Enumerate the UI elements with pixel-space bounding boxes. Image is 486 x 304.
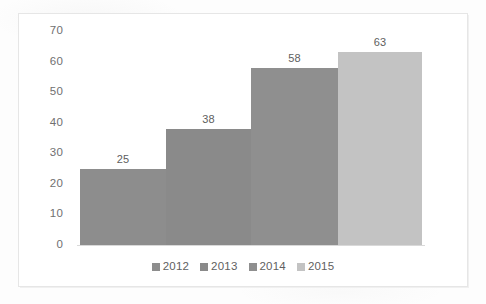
bar-value-label: 58: [288, 53, 301, 64]
legend-item-2014[interactable]: 2014: [249, 261, 286, 273]
y-axis-tick-20: 20: [50, 178, 63, 190]
bar-rect-2014[interactable]: [251, 68, 338, 245]
y-axis-tick-50: 50: [50, 86, 63, 98]
y-axis-tick-40: 40: [50, 117, 63, 129]
x-axis-baseline: [77, 245, 425, 246]
y-axis-tick-10: 10: [50, 208, 63, 220]
bar-rect-2015[interactable]: [338, 52, 422, 245]
legend-swatch-icon: [297, 263, 305, 271]
legend-item-2013[interactable]: 2013: [200, 261, 237, 273]
chart-frame: 706050403020100 25385863 201220132014201…: [18, 13, 468, 287]
legend-swatch-icon: [152, 263, 160, 271]
legend-swatch-icon: [200, 263, 208, 271]
bar-value-label: 38: [202, 114, 215, 125]
y-axis-tick-30: 30: [50, 147, 63, 159]
chart-screenshot: 706050403020100 25385863 201220132014201…: [0, 0, 486, 304]
bar-value-label: 25: [117, 154, 130, 165]
bar-2013[interactable]: 38: [166, 31, 251, 245]
plot-area: 25385863: [80, 31, 422, 245]
legend-swatch-icon: [249, 263, 257, 271]
bar-2015[interactable]: 63: [338, 31, 422, 245]
legend-label: 2015: [308, 261, 334, 273]
legend-label: 2012: [163, 261, 189, 273]
bar-rect-2012[interactable]: [80, 169, 166, 245]
bar-2012[interactable]: 25: [80, 31, 166, 245]
bar-2014[interactable]: 58: [251, 31, 338, 245]
legend-label: 2013: [211, 261, 237, 273]
bar-value-label: 63: [374, 37, 387, 48]
y-axis: 706050403020100: [19, 14, 77, 288]
legend-item-2012[interactable]: 2012: [152, 261, 189, 273]
y-axis-tick-0: 0: [56, 239, 63, 251]
chart-legend: 2012201320142015: [19, 261, 467, 273]
legend-item-2015[interactable]: 2015: [297, 261, 334, 273]
bar-rect-2013[interactable]: [166, 129, 251, 245]
legend-label: 2014: [260, 261, 286, 273]
y-axis-tick-60: 60: [50, 56, 63, 68]
y-axis-tick-70: 70: [50, 25, 63, 37]
bar-series: 25385863: [80, 31, 422, 245]
